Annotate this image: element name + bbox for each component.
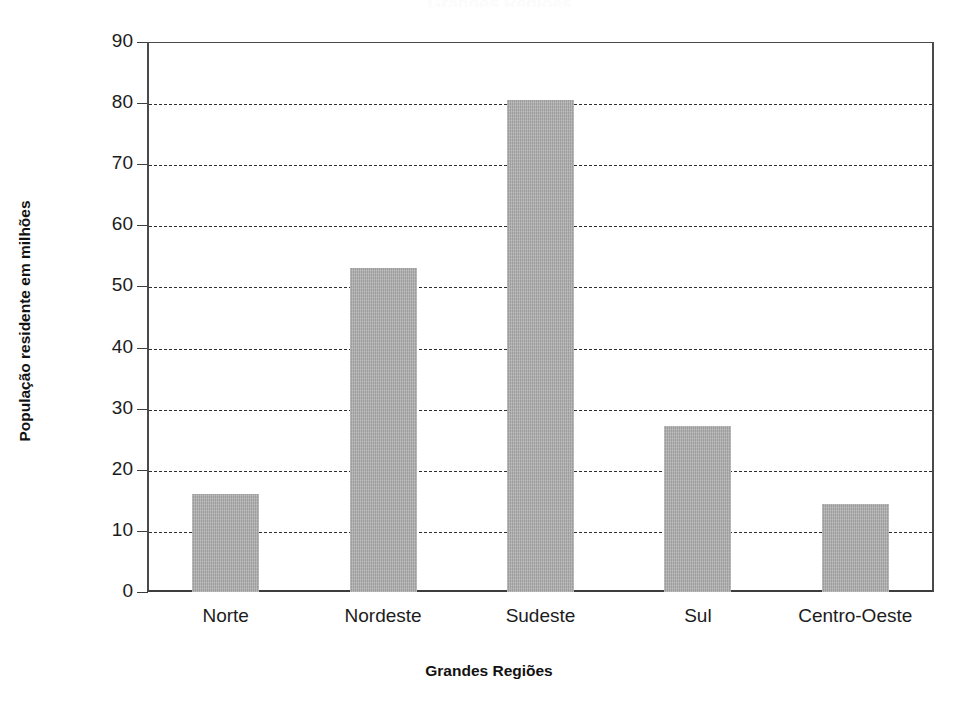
gridline <box>149 165 932 166</box>
x-axis-title: Grandes Regiões <box>0 662 978 680</box>
y-axis-tick-label: 30 <box>71 398 133 417</box>
gridline <box>149 410 932 411</box>
x-axis-tick-label: Sul <box>608 605 788 627</box>
y-axis-tick-label: 10 <box>71 520 133 539</box>
y-axis-tick-label: 90 <box>71 31 133 50</box>
x-axis-tick-label: Norte <box>136 605 316 627</box>
gridline <box>149 532 932 533</box>
gridline <box>149 349 932 350</box>
y-axis-tick-label: 20 <box>71 459 133 478</box>
y-axis-tick-label: 50 <box>71 275 133 294</box>
gridline <box>149 104 932 105</box>
y-axis-tick-label: 70 <box>71 153 133 172</box>
y-axis-tick-label: 80 <box>71 92 133 111</box>
y-axis-tick-label: 60 <box>71 214 133 233</box>
y-axis-title: População residente em milhões <box>16 141 34 501</box>
y-axis-tick-label: 0 <box>71 581 133 600</box>
clipped-title-remnant: Grandes Regiões <box>150 0 850 7</box>
y-axis-tick-label: 40 <box>71 337 133 356</box>
plot-area <box>147 42 934 592</box>
gridline <box>149 287 932 288</box>
x-axis-tick-label: Nordeste <box>293 605 473 627</box>
y-axis-tick <box>137 592 148 593</box>
gridline <box>149 471 932 472</box>
y-axis-title-container: População residente em milhões <box>0 0 46 706</box>
gridline <box>149 226 932 227</box>
bar-chart: Grandes Regiões População residente em m… <box>0 0 978 706</box>
x-axis-tick-label: Sudeste <box>451 605 631 627</box>
x-axis-tick-label: Centro-Oeste <box>765 605 945 627</box>
